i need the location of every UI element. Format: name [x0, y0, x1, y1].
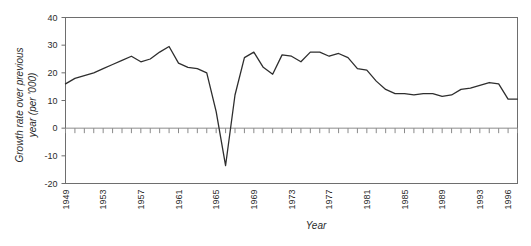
y-axis-title-line1: Growth rate over previous: [14, 47, 25, 162]
x-axis-tick-label: 1969: [249, 190, 259, 210]
y-axis-tick-labels: -20-10010203040: [44, 13, 57, 189]
y-axis-tick-label: 0: [52, 123, 57, 133]
y-axis-tick-label: -10: [44, 151, 57, 161]
x-axis-tick-label: 1953: [98, 190, 108, 210]
y-axis-tick-label: -20: [44, 179, 57, 189]
x-axis-tick-label: 1965: [211, 190, 221, 210]
x-axis-tick-label: 1981: [362, 190, 372, 210]
chart-figure: Growth rate over previous year (per '000…: [0, 0, 531, 246]
x-axis-tick-label: 1993: [475, 190, 485, 210]
x-axis-tick-label: 1961: [174, 190, 184, 210]
x-axis-ticks: [66, 128, 518, 133]
y-axis-tick-label: 40: [47, 13, 57, 23]
x-axis-tick-labels: 1949195319571961196519691973197719811985…: [61, 190, 514, 210]
y-axis-tick-label: 20: [47, 68, 57, 78]
x-axis-tick-label: 1996: [503, 190, 513, 210]
x-axis-tick-label: 1949: [61, 190, 71, 210]
x-axis-tick-label: 1977: [324, 190, 334, 210]
y-axis-tick-label: 30: [47, 40, 57, 50]
x-axis-tick-label: 1957: [136, 190, 146, 210]
x-axis-title: Year: [306, 220, 327, 231]
x-axis-tick-label: 1973: [287, 190, 297, 210]
growth-rate-line-chart: Growth rate over previous year (per '000…: [0, 0, 531, 246]
series-line-growth-rate: [66, 47, 518, 166]
x-axis-tick-label: 1985: [400, 190, 410, 210]
y-axis-tick-label: 10: [47, 96, 57, 106]
y-axis-ticks: [62, 18, 66, 184]
plot-frame: [66, 18, 518, 184]
y-axis-title: Growth rate over previous year (per '000…: [14, 47, 38, 162]
y-axis-title-line2: year (per '000): [27, 73, 38, 139]
x-axis-tick-label: 1989: [437, 190, 447, 210]
